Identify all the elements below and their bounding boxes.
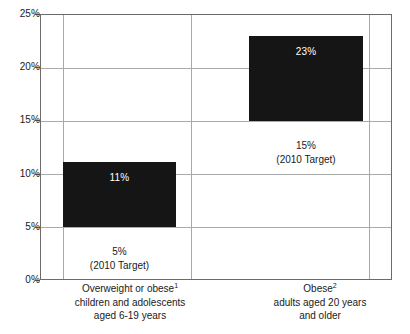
y-axis-tick-mark-0: [35, 280, 40, 281]
x-axis-label-children-line2: children and adolescents: [50, 296, 210, 309]
target-note-children: 5% (2010 Target): [63, 245, 176, 273]
x-axis-label-adults-line3: and older: [240, 309, 400, 322]
target-value-children: 5%: [63, 245, 176, 259]
bar-value-children: 11%: [63, 172, 176, 183]
bar-value-adults: 23%: [249, 46, 363, 57]
bar-adults[interactable]: 23%: [249, 36, 363, 121]
target-caption-adults: (2010 Target): [249, 153, 363, 167]
bar-children[interactable]: 11%: [63, 162, 176, 227]
gridline-15: [41, 121, 391, 122]
plot-area: 11% 5% (2010 Target) 23% 15% (2010 Targe…: [40, 14, 392, 280]
target-value-adults: 15%: [249, 139, 363, 153]
x-axis-label-adults: Obese2 adults aged 20 years and older: [240, 283, 400, 322]
x-axis-label-children-line3: aged 6-19 years: [50, 309, 210, 322]
x-axis-label-children: Overweight or obese1 children and adoles…: [50, 283, 210, 322]
gridline-5: [41, 227, 391, 228]
x-axis-label-adults-line2: adults aged 20 years: [240, 296, 400, 309]
x-axis-label-children-line1: Overweight or obese1: [50, 282, 210, 295]
x-axis-label-adults-line1: Obese2: [240, 282, 400, 295]
footnote-marker-1: 1: [174, 282, 178, 289]
footnote-marker-2: 2: [333, 282, 337, 289]
target-caption-children: (2010 Target): [63, 259, 176, 273]
target-note-adults: 15% (2010 Target): [249, 139, 363, 167]
category-divider-middle: [191, 15, 192, 279]
bar-chart: 25% 20% 15% 10% 5% 0%: [0, 0, 410, 334]
category-divider-left: [63, 15, 64, 279]
category-divider-right: [369, 15, 370, 279]
